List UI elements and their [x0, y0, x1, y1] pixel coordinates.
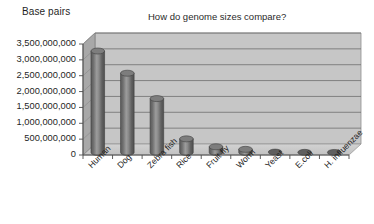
x-axis-tick-label: Dog — [115, 152, 133, 170]
x-axis-tick-label: E.coli — [293, 148, 315, 170]
chart-container: Base pairs How do genome sizes compare? … — [0, 0, 374, 224]
x-axis-tick-labels: HumanDogZebra fishRiceFruit flyWormYeast… — [0, 0, 374, 224]
x-axis-tick-label: Yeast — [263, 148, 285, 170]
x-axis-tick-label: Zebra fish — [145, 136, 179, 170]
x-axis-tick-label: Worm — [234, 147, 257, 170]
x-axis-tick-label: H. influenzae — [322, 128, 365, 171]
x-axis-tick-label: Rice — [174, 151, 193, 170]
x-axis-tick-label: Fruit fly — [204, 143, 231, 170]
x-axis-tick-label: Human — [86, 143, 113, 170]
